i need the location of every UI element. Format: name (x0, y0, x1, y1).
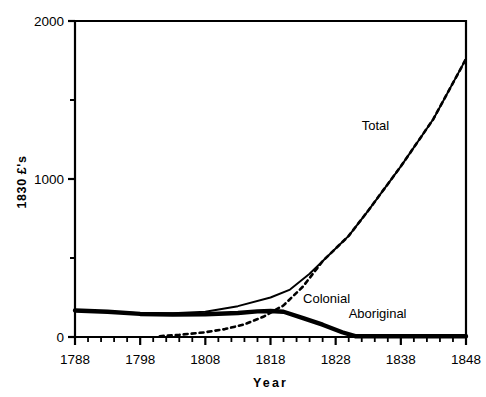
x-tick-label: 1848 (451, 352, 481, 367)
series-label-aboriginal: Aboriginal (349, 306, 407, 321)
x-tick-label: 1828 (321, 352, 351, 367)
series-line-aboriginal (75, 310, 466, 336)
x-axis-title: Year (253, 376, 288, 390)
chart-container: 0100020001788179818081818182818381848Yea… (0, 0, 486, 397)
series-label-total: Total (362, 118, 390, 133)
series-label-colonial: Colonial (303, 291, 350, 306)
x-tick-label: 1788 (60, 352, 90, 367)
x-tick-label: 1818 (255, 352, 285, 367)
y-axis-title: 1830 £'s (15, 156, 29, 209)
series-line-total (75, 59, 466, 313)
y-tick-label: 2000 (34, 14, 64, 29)
x-tick-label: 1798 (125, 352, 155, 367)
line-chart: 0100020001788179818081818182818381848Yea… (0, 0, 486, 397)
y-tick-label: 0 (56, 330, 64, 345)
x-tick-label: 1838 (386, 352, 416, 367)
plot-frame (75, 21, 466, 337)
y-tick-label: 1000 (34, 172, 64, 187)
x-tick-label: 1808 (190, 352, 220, 367)
